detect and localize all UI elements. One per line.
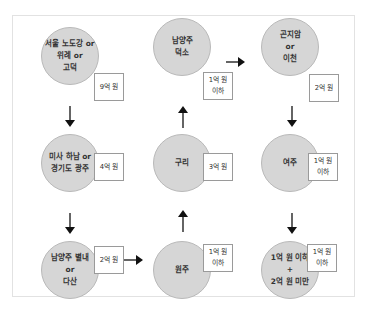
price-label: 3억 원	[209, 162, 228, 173]
price-box: 1억 원 이하	[308, 153, 338, 181]
price-box: 2억 원	[309, 74, 339, 102]
arrow-down-icon	[65, 106, 75, 128]
node-seoul: 서울 노도강 or 위례 or 고덕	[41, 27, 99, 85]
node-namyangju-deokso: 남양주 덕소	[153, 18, 211, 76]
price-label: 1억 원 이하	[314, 156, 333, 178]
price-box: 9억 원	[94, 73, 124, 101]
price-label: 2억 원	[315, 83, 334, 94]
price-label: 4억 원	[100, 162, 119, 173]
price-label: 9억 원	[100, 82, 119, 93]
price-label: 1억 원 이하	[313, 247, 332, 269]
price-box: 1억 원 이하	[203, 72, 233, 100]
price-label: 1억 원 이하	[209, 247, 228, 269]
arrow-up-icon	[178, 210, 188, 232]
node-gonjiam: 곤지암 or 이천	[261, 18, 319, 76]
node-label: 여주	[283, 157, 297, 169]
arrow-down-icon	[287, 106, 297, 128]
price-label: 2억 원	[100, 255, 119, 266]
price-box: 2억 원	[94, 246, 124, 274]
node-label: 남양주 덕소	[172, 35, 193, 59]
arrow-up-icon	[178, 106, 188, 128]
node-label: 남양주 별내 or 다산	[51, 252, 89, 288]
price-box: 1억 원 이하	[307, 244, 337, 272]
price-box: 1억 원 이하	[203, 244, 233, 272]
node-label: 곤지암 or 이천	[280, 29, 301, 65]
node-misa: 미사 하남 or 경기도 광주	[41, 134, 99, 192]
arrow-down-icon	[65, 213, 75, 235]
arrow-down-icon	[287, 213, 297, 235]
node-namyangju-byeollae: 남양주 별내 or 다산	[41, 241, 99, 299]
node-label: 미사 하남 or 경기도 광주	[49, 151, 91, 175]
node-label: 원주	[175, 264, 189, 276]
arrow-right-icon	[226, 57, 246, 67]
price-label: 1억 원 이하	[209, 75, 228, 97]
node-label: 구리	[175, 157, 189, 169]
arrow-right-icon	[124, 255, 144, 265]
node-label: 1억 원 이하 + 2억 원 미만	[271, 252, 309, 288]
node-label: 서울 노도강 or 위례 or 고덕	[45, 38, 94, 74]
price-box: 4억 원	[94, 153, 124, 181]
price-box: 3억 원	[203, 153, 233, 181]
